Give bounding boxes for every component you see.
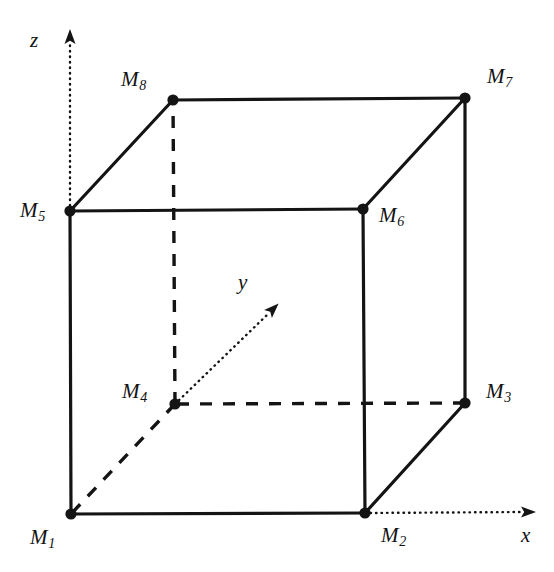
vertex-label-base-M4: M [122, 379, 140, 403]
vertex-label-subscript-M5: 5 [38, 209, 45, 224]
axis-label-y: y [238, 272, 247, 293]
vertex-label-base-M5: M [20, 198, 38, 222]
axis-line-x [365, 512, 521, 513]
vertex-dot-M6 [357, 203, 368, 214]
cube-edge-M3-M4 [175, 403, 465, 404]
vertex-dot-M1 [65, 508, 76, 519]
cube-edge-M1-M2 [71, 513, 365, 514]
cube-edge-M7-M8 [173, 98, 465, 100]
vertex-label-subscript-M1: 1 [48, 536, 55, 551]
vertex-dot-M7 [459, 92, 470, 103]
vertex-label-subscript-M3: 3 [504, 390, 511, 405]
vertex-label-base-M1: M [30, 525, 48, 549]
vertex-label-subscript-M7: 7 [505, 75, 512, 90]
vertex-label-M4: M4 [122, 381, 147, 402]
cube-diagram-canvas [0, 0, 554, 572]
vertex-label-M3: M3 [486, 381, 511, 402]
vertex-label-M6: M6 [379, 205, 404, 226]
axis-label-z: z [30, 30, 38, 51]
vertex-label-base-M8: M [121, 67, 139, 91]
vertex-dot-M3 [459, 397, 470, 408]
vertex-label-subscript-M6: 6 [397, 214, 404, 229]
vertex-label-M8: M8 [121, 69, 146, 90]
vertex-label-subscript-M8: 8 [139, 78, 146, 93]
axis-arrow-x-icon [521, 507, 536, 518]
vertex-dot-M2 [359, 507, 370, 518]
cube-edge-M8-M5 [70, 100, 173, 211]
edge-layer [70, 98, 465, 514]
cube-figure: zyxM1M2M3M4M5M6M7M8 [0, 0, 554, 572]
cube-edge-M2-M3 [365, 403, 465, 513]
vertex-label-subscript-M4: 4 [140, 390, 147, 405]
vertex-label-base-M3: M [486, 379, 504, 403]
vertex-label-M7: M7 [487, 66, 512, 87]
axis-line-y [175, 314, 268, 404]
vertex-dot-M8 [167, 94, 178, 105]
cube-edge-M4-M8 [173, 100, 175, 404]
vertex-label-M5: M5 [20, 200, 45, 221]
cube-edge-M5-M6 [70, 209, 363, 211]
vertex-dot-M5 [64, 205, 75, 216]
vertex-label-M2: M2 [381, 525, 406, 546]
vertex-label-base-M6: M [379, 203, 397, 227]
vertex-dot-M4 [169, 398, 180, 409]
vertex-label-subscript-M2: 2 [399, 534, 406, 549]
cube-edge-M1-M5 [70, 211, 71, 514]
cube-edge-M6-M7 [363, 98, 465, 209]
axis-arrow-z-icon [65, 29, 76, 44]
axis-label-x: x [521, 525, 530, 546]
vertex-label-base-M2: M [381, 523, 399, 547]
vertex-label-base-M7: M [487, 64, 505, 88]
cube-edge-M2-M6 [363, 209, 365, 513]
cube-edge-M4-M1 [71, 404, 175, 514]
vertex-label-M1: M1 [30, 527, 55, 548]
